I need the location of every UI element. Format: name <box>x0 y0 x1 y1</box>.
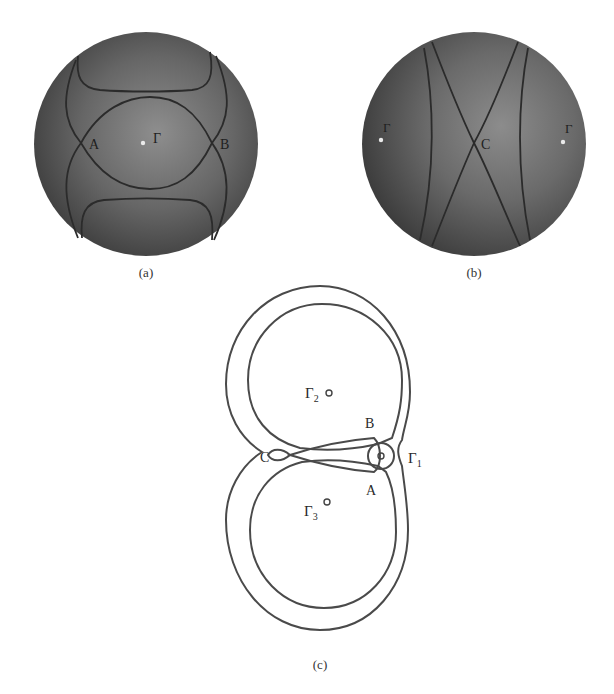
gamma-label-b-right: Γ <box>565 121 573 136</box>
gamma2-label: Γ2 <box>305 385 319 404</box>
upper-inner-orbit <box>248 304 402 450</box>
gamma-point-a <box>141 141 145 145</box>
gamma-label-b-left: Γ <box>383 120 391 135</box>
c-loop-curve <box>268 450 290 461</box>
gamma2-point <box>326 390 332 396</box>
caption-b: (b) <box>466 265 481 280</box>
gamma1-label: Γ1 <box>408 450 422 469</box>
wedge-orbit <box>290 438 380 472</box>
gamma-point-b-right <box>561 140 565 144</box>
gamma1-orbit <box>368 443 394 469</box>
panel-b: Γ Γ C <box>362 32 586 256</box>
caption-c: (c) <box>313 657 327 672</box>
gamma3-point <box>324 499 330 505</box>
panel-a: Γ A B <box>34 32 258 256</box>
figure-canvas: Γ A B (a) Γ Γ C (b) Γ2 <box>0 0 614 694</box>
point-b-label: B <box>220 137 229 152</box>
point-c-label-b: C <box>481 137 490 152</box>
point-a-label: A <box>89 137 100 152</box>
gamma3-label: Γ3 <box>304 503 318 522</box>
point-c-label-c: C <box>260 450 269 465</box>
caption-a: (a) <box>139 265 153 280</box>
gamma-point-b-left <box>379 138 383 142</box>
point-a-label-c: A <box>366 483 377 498</box>
point-b-label-c: B <box>365 416 374 431</box>
gamma1-point <box>378 453 384 459</box>
gamma-label-a: Γ <box>153 131 161 146</box>
panel-c: Γ2 Γ3 Γ1 B A C <box>226 286 422 630</box>
